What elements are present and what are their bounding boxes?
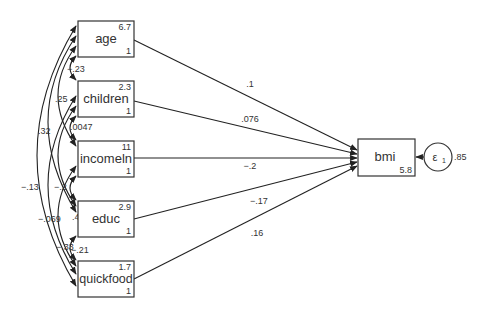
path-label: .076 bbox=[241, 114, 259, 124]
node-educ: educ 2.9 1 bbox=[78, 201, 134, 237]
svg-text:1: 1 bbox=[442, 157, 446, 164]
cov-label: .0047 bbox=[70, 122, 93, 132]
svg-text:1: 1 bbox=[126, 106, 131, 116]
svg-text:bmi: bmi bbox=[375, 149, 396, 164]
svg-text:1: 1 bbox=[126, 286, 131, 296]
svg-text:children: children bbox=[83, 91, 129, 106]
svg-text:1: 1 bbox=[126, 166, 131, 176]
svg-text:2.3: 2.3 bbox=[118, 82, 131, 92]
error-variance: .85 bbox=[454, 152, 467, 162]
path-label: −.17 bbox=[250, 196, 268, 206]
node-children: children 2.3 1 bbox=[78, 81, 134, 117]
path-label: .16 bbox=[251, 228, 264, 238]
node-incomeln: incomeln 11 1 bbox=[78, 141, 134, 177]
cov-label: .32 bbox=[38, 126, 51, 136]
svg-text:incomeln: incomeln bbox=[80, 151, 132, 166]
path-label: −.2 bbox=[244, 161, 257, 171]
svg-text:1: 1 bbox=[126, 46, 131, 56]
path-quickfood-bmi bbox=[134, 166, 357, 279]
node-error: ε 1 .85 bbox=[424, 143, 467, 171]
svg-text:quickfood: quickfood bbox=[79, 272, 133, 286]
cov-incomeln-educ bbox=[70, 176, 76, 200]
svg-text:1.7: 1.7 bbox=[118, 262, 131, 272]
path-diagram: −.23 .25 .32 −.13 .0047 −.2 −.069 .48 −.… bbox=[0, 0, 479, 315]
cov-label: .25 bbox=[55, 94, 68, 104]
path-children-bmi bbox=[134, 101, 357, 154]
svg-text:5.8: 5.8 bbox=[399, 165, 412, 175]
regression-paths bbox=[134, 40, 357, 279]
svg-text:educ: educ bbox=[92, 211, 121, 226]
cov-label: −.21 bbox=[71, 245, 89, 255]
path-age-bmi bbox=[134, 40, 357, 150]
svg-text:ε: ε bbox=[433, 151, 438, 163]
svg-text:6.7: 6.7 bbox=[118, 22, 131, 32]
node-bmi: bmi 5.8 bbox=[358, 139, 415, 176]
cov-label: −.23 bbox=[67, 64, 85, 74]
cov-label: −.13 bbox=[21, 182, 39, 192]
svg-text:2.9: 2.9 bbox=[118, 202, 131, 212]
cov-label: −.2 bbox=[54, 182, 67, 192]
node-quickfood: quickfood 1.7 1 bbox=[78, 261, 134, 297]
cov-label: −.069 bbox=[38, 214, 61, 224]
svg-text:age: age bbox=[95, 31, 117, 46]
svg-text:11: 11 bbox=[122, 142, 131, 152]
svg-text:1: 1 bbox=[126, 226, 131, 236]
path-label: .1 bbox=[246, 79, 254, 89]
node-age: age 6.7 1 bbox=[78, 21, 134, 57]
